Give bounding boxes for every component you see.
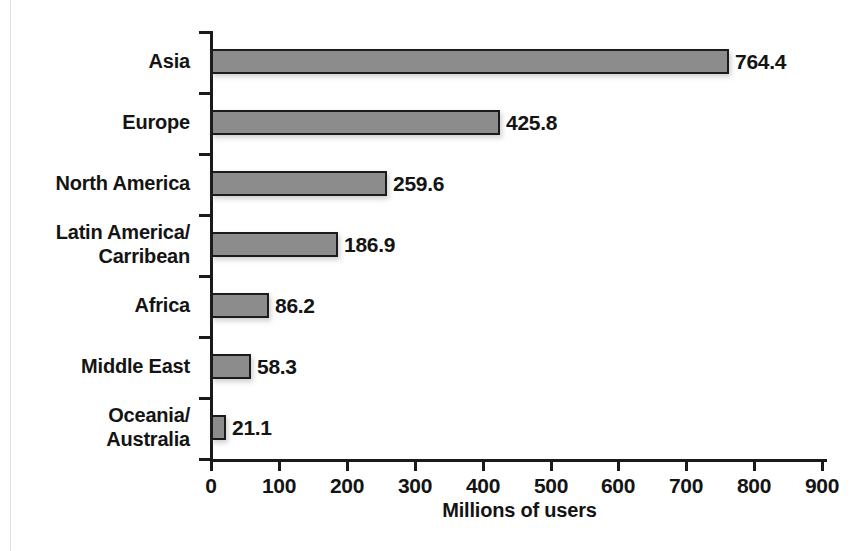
category-label-north-america: North America bbox=[0, 153, 198, 214]
category-label-line1: Europe bbox=[122, 111, 190, 134]
category-label-africa: Africa bbox=[0, 275, 198, 336]
category-label-line1: Latin America/ bbox=[56, 221, 190, 244]
chart-row-latin-america: Latin America/ Carribean 186.9 bbox=[0, 214, 851, 275]
x-axis-tick bbox=[482, 459, 485, 471]
x-axis-tick bbox=[550, 459, 553, 471]
x-axis-title: Millions of users bbox=[211, 499, 828, 522]
bar-africa bbox=[211, 293, 269, 318]
x-tick-label-300: 300 bbox=[398, 474, 432, 498]
source-note bbox=[26, 543, 446, 551]
x-axis-tick bbox=[210, 459, 213, 471]
bar-group-asia: 764.4 bbox=[211, 31, 786, 92]
x-axis-tick bbox=[821, 459, 824, 471]
bar-middle-east bbox=[211, 354, 251, 379]
bar-value-latin-america: 186.9 bbox=[344, 233, 395, 257]
bar-north-america bbox=[211, 171, 387, 196]
x-tick-label-500: 500 bbox=[534, 474, 568, 498]
x-tick-label-900: 900 bbox=[805, 474, 839, 498]
chart-row-asia: Asia 764.4 bbox=[0, 31, 851, 92]
bar-value-asia: 764.4 bbox=[735, 50, 786, 74]
category-label-line2: Australia bbox=[106, 428, 190, 451]
x-tick-label-700: 700 bbox=[669, 474, 703, 498]
category-label-line1: Oceania/ bbox=[108, 404, 190, 427]
x-axis-tick bbox=[414, 459, 417, 471]
chart-row-oceania: Oceania/ Australia 21.1 bbox=[0, 397, 851, 458]
bar-group-middle-east: 58.3 bbox=[211, 336, 297, 397]
bar-value-north-america: 259.6 bbox=[393, 172, 444, 196]
category-label-line1: Middle East bbox=[81, 355, 190, 378]
bar-oceania bbox=[211, 415, 226, 440]
bar-value-africa: 86.2 bbox=[275, 294, 315, 318]
bar-europe bbox=[211, 110, 500, 135]
x-axis-line bbox=[210, 459, 827, 462]
x-axis-tick bbox=[346, 459, 349, 471]
category-label-latin-america: Latin America/ Carribean bbox=[0, 214, 198, 275]
bar-group-latin-america: 186.9 bbox=[211, 214, 395, 275]
category-label-line1: Asia bbox=[149, 50, 190, 73]
bar-asia bbox=[211, 49, 729, 74]
bar-value-europe: 425.8 bbox=[506, 111, 557, 135]
category-label-line1: North America bbox=[56, 172, 190, 195]
bar-latin-america bbox=[211, 232, 338, 257]
bar-group-europe: 425.8 bbox=[211, 92, 557, 153]
bar-group-north-america: 259.6 bbox=[211, 153, 444, 214]
category-label-middle-east: Middle East bbox=[0, 336, 198, 397]
category-label-europe: Europe bbox=[0, 92, 198, 153]
category-label-line1: Africa bbox=[135, 294, 191, 317]
chart-row-north-america: North America 259.6 bbox=[0, 153, 851, 214]
x-tick-label-0: 0 bbox=[205, 474, 216, 498]
bar-chart: Asia 764.4 Europe 425.8 North America 25… bbox=[0, 0, 851, 551]
chart-row-africa: Africa 86.2 bbox=[0, 275, 851, 336]
x-axis-tick bbox=[617, 459, 620, 471]
bar-group-oceania: 21.1 bbox=[211, 397, 272, 458]
chart-row-middle-east: Middle East 58.3 bbox=[0, 336, 851, 397]
x-tick-label-100: 100 bbox=[262, 474, 296, 498]
x-tick-label-800: 800 bbox=[737, 474, 771, 498]
bar-value-oceania: 21.1 bbox=[232, 416, 272, 440]
category-label-asia: Asia bbox=[0, 31, 198, 92]
x-axis-tick bbox=[753, 459, 756, 471]
category-label-oceania: Oceania/ Australia bbox=[0, 397, 198, 458]
x-tick-label-200: 200 bbox=[330, 474, 364, 498]
x-tick-label-400: 400 bbox=[466, 474, 500, 498]
bar-group-africa: 86.2 bbox=[211, 275, 315, 336]
x-tick-label-600: 600 bbox=[601, 474, 635, 498]
category-label-line2: Carribean bbox=[98, 245, 190, 268]
x-axis-tick bbox=[685, 459, 688, 471]
bar-value-middle-east: 58.3 bbox=[257, 355, 297, 379]
chart-row-europe: Europe 425.8 bbox=[0, 92, 851, 153]
y-axis-tick bbox=[199, 458, 210, 461]
x-axis-tick bbox=[278, 459, 281, 471]
